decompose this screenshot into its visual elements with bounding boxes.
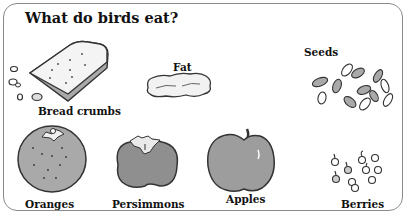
berries-illustration-icon (0, 0, 408, 215)
label-berries: Berries (341, 198, 384, 210)
